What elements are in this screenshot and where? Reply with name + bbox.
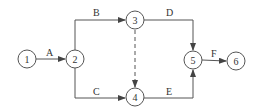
node-5: 5 xyxy=(184,51,202,69)
node-4: 4 xyxy=(126,88,144,106)
svg-text:4: 4 xyxy=(133,92,138,103)
edge-label-e: E xyxy=(166,86,172,97)
svg-text:2: 2 xyxy=(73,54,78,65)
edge-label-c: C xyxy=(93,86,100,97)
edge-label-b: B xyxy=(93,7,100,18)
edge-b: B xyxy=(75,7,125,50)
node-6: 6 xyxy=(227,52,245,70)
edge-label-f: F xyxy=(211,48,217,59)
svg-text:5: 5 xyxy=(191,55,196,66)
edge-d: D xyxy=(144,7,193,50)
network-diagram: A B C D E F 1 2 3 4 5 xyxy=(0,0,265,111)
svg-text:1: 1 xyxy=(25,54,30,65)
edge-a: A xyxy=(36,47,65,59)
node-3: 3 xyxy=(126,11,144,29)
svg-text:6: 6 xyxy=(234,56,239,67)
edge-e: E xyxy=(144,70,193,98)
node-1: 1 xyxy=(18,50,36,68)
node-2: 2 xyxy=(66,50,84,68)
edge-label-d: D xyxy=(166,7,173,18)
edge-c: C xyxy=(75,68,125,98)
edge-f: F xyxy=(202,48,226,61)
edge-label-a: A xyxy=(46,47,54,58)
svg-text:3: 3 xyxy=(133,15,138,26)
